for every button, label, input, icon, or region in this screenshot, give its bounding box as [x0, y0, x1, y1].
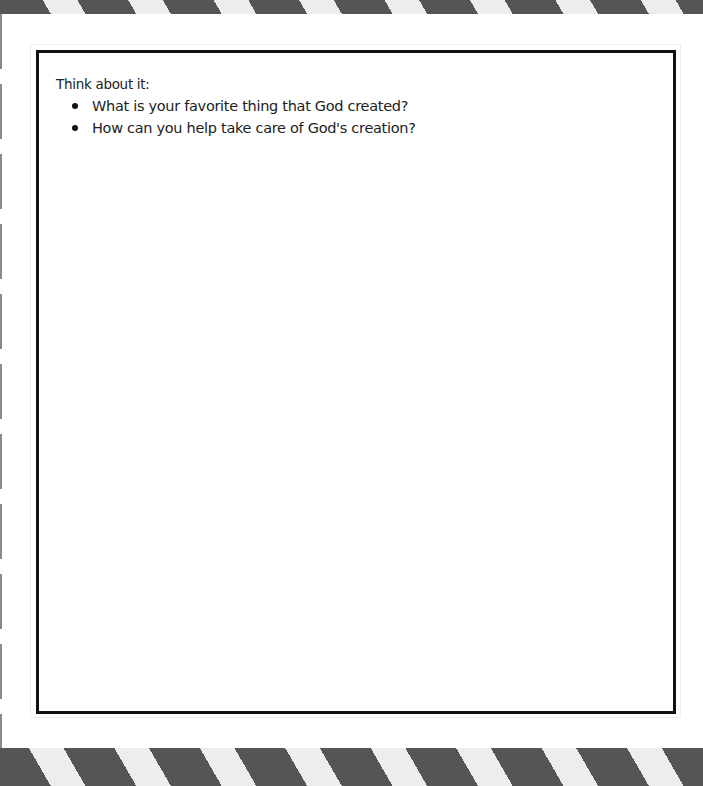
top-stripe-border: [0, 0, 703, 14]
question-text: What is your favorite thing that God cre…: [92, 98, 408, 114]
bullet-icon: [72, 125, 78, 131]
bottom-stripe-border: [0, 748, 703, 786]
question-list: What is your favorite thing that God cre…: [56, 95, 656, 139]
left-edge-decoration: [0, 14, 2, 748]
prompt-heading: Think about it:: [56, 75, 656, 93]
worksheet-box: Think about it: What is your favorite th…: [36, 50, 676, 714]
question-item: How can you help take care of God's crea…: [56, 117, 656, 139]
bullet-icon: [72, 103, 78, 109]
question-text: How can you help take care of God's crea…: [92, 120, 416, 136]
worksheet-content: Think about it: What is your favorite th…: [56, 75, 656, 139]
question-item: What is your favorite thing that God cre…: [56, 95, 656, 117]
